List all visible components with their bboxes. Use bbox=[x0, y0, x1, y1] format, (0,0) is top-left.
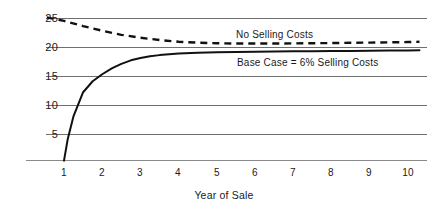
annotation-base-case: Base Case = 6% Selling Costs bbox=[237, 57, 379, 68]
annotation-no-selling-costs: No Selling Costs bbox=[236, 29, 313, 40]
plot-area: 25 20 15 10 5 1 2 3 4 5 6 7 8 9 10 No Se… bbox=[0, 0, 448, 217]
chart-figure: 25 20 15 10 5 1 2 3 4 5 6 7 8 9 10 No Se… bbox=[0, 0, 448, 217]
series-curves bbox=[0, 0, 448, 217]
x-axis-title: Year of Sale bbox=[0, 189, 448, 201]
series-line-no-selling-costs bbox=[47, 17, 420, 43]
